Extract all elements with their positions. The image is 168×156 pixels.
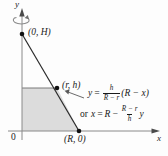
eq2-fraction: R − r h: [120, 106, 140, 123]
eq1-equals: =: [92, 89, 101, 99]
label-point-0-H: (0, H): [28, 28, 51, 38]
eq1-rhs: (R − x): [121, 89, 149, 99]
dot-point-r-h: [55, 86, 60, 91]
y-axis-label: y: [15, 0, 19, 9]
equation-solved-for-x: or x = R − R − r h y: [80, 106, 144, 123]
x-axis-label: x: [157, 134, 161, 143]
eq1-fraction: h R − r: [102, 85, 122, 102]
leader-line: [68, 92, 84, 98]
eq2-numerator: R − r: [121, 106, 139, 114]
y-axis-arrowhead: [19, 8, 24, 17]
equation-line-slope-intercept: y = h R − r (R − x): [88, 85, 149, 102]
math-figure: y x 0 (0, H) (r, h) (R, 0) y = h R − r (…: [0, 0, 168, 156]
eq2-trailing: y: [139, 110, 143, 120]
shaded-region: [22, 88, 79, 131]
eq2-minus: −: [110, 110, 119, 120]
eq2-denominator: h: [127, 114, 133, 123]
eq1-numerator: h: [109, 85, 115, 93]
label-point-r-h: (r, h): [62, 81, 80, 91]
dot-point-R-0: [77, 129, 82, 134]
eq1-denominator: R − r: [103, 93, 121, 102]
label-point-R-0: (R, 0): [64, 135, 86, 145]
eq2-prefix: or: [80, 110, 91, 120]
rotation-arrowhead: [25, 15, 29, 19]
dot-point-0-H: [20, 32, 25, 37]
eq2-equals: =: [95, 110, 104, 120]
origin-label: 0: [11, 133, 16, 143]
diagram-canvas: [0, 0, 168, 156]
